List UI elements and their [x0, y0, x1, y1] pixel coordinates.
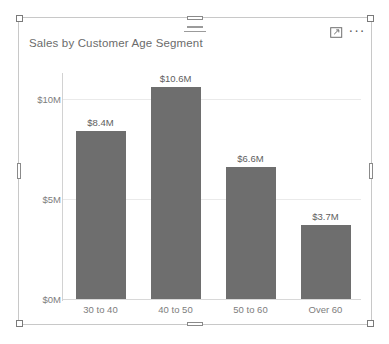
chart-plot-area: $0M$5M$10M $8.4M$10.6M$6.6M$3.7M 30 to 4…: [19, 18, 371, 324]
focus-mode-icon[interactable]: [329, 26, 343, 40]
visual-header-icons: ···: [329, 23, 364, 42]
x-axis-tick-label: 40 to 50: [158, 304, 192, 315]
resize-handle-top-left[interactable]: [16, 15, 23, 22]
bar-over-60[interactable]: [301, 225, 351, 299]
resize-handle-top[interactable]: [187, 16, 203, 20]
resize-handle-right[interactable]: [369, 163, 373, 179]
bar-30-to-40[interactable]: [76, 131, 126, 299]
resize-handle-left[interactable]: [17, 163, 21, 179]
y-axis-tick-label: $0M: [25, 294, 61, 305]
resize-handle-bottom-left[interactable]: [16, 320, 23, 327]
visual-title: Sales by Customer Age Segment: [29, 37, 203, 49]
gridline: [63, 299, 361, 300]
more-options-icon[interactable]: ···: [350, 23, 364, 42]
x-axis-tick-label: 50 to 60: [233, 304, 267, 315]
bar-data-label: $3.7M: [312, 211, 338, 222]
bar-50-to-60[interactable]: [226, 167, 276, 299]
visual-card[interactable]: $0M$5M$10M $8.4M$10.6M$6.6M$3.7M 30 to 4…: [18, 17, 372, 325]
drag-handle-line: [184, 31, 206, 33]
resize-handle-bottom[interactable]: [187, 322, 203, 326]
x-axis-tick-label: 30 to 40: [83, 304, 117, 315]
y-axis-tick-label: $5M: [25, 194, 61, 205]
resize-handle-bottom-right[interactable]: [367, 320, 374, 327]
bar-data-label: $8.4M: [87, 117, 113, 128]
bar-data-label: $10.6M: [160, 73, 192, 84]
bar-data-label: $6.6M: [237, 153, 263, 164]
bar-40-to-50[interactable]: [151, 87, 201, 299]
x-axis-tick-label: Over 60: [309, 304, 343, 315]
resize-handle-top-right[interactable]: [367, 15, 374, 22]
drag-handle-line: [187, 26, 203, 28]
drag-handle-icon[interactable]: [184, 26, 206, 35]
y-axis-tick-label: $10M: [25, 94, 61, 105]
gridline: [63, 99, 361, 100]
y-axis-line: [62, 73, 63, 301]
